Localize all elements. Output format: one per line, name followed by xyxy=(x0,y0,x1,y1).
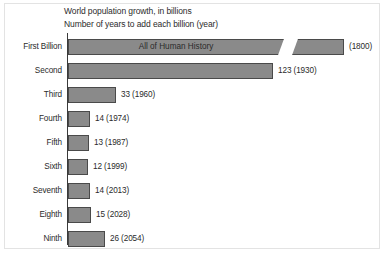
bar-value-label: 13 (1987) xyxy=(94,131,128,155)
bar-row-label: Ninth xyxy=(0,227,62,251)
bar-row-label: Fifth xyxy=(0,131,62,155)
bar xyxy=(68,183,90,199)
bar-value-label: 26 (2054) xyxy=(110,227,144,251)
bar xyxy=(68,231,105,247)
bar-row: Fourth14 (1974) xyxy=(0,107,386,131)
bar-value-label: 14 (2013) xyxy=(95,179,129,203)
bar-row-label: Sixth xyxy=(0,155,62,179)
bar-row-label: Seventh xyxy=(0,179,62,203)
bar-row: Sixth12 (1999) xyxy=(0,155,386,179)
bar-row: Third33 (1960) xyxy=(0,83,386,107)
chart-plot-area: First BillionAll of Human History(1800)S… xyxy=(0,33,386,247)
bar-value-label: 123 (1930) xyxy=(278,59,317,83)
bar-row-label: Eighth xyxy=(0,203,62,227)
bar-row: Seventh14 (2013) xyxy=(0,179,386,203)
bar-value-label: 12 (1999) xyxy=(93,155,127,179)
bar-row: Fifth13 (1987) xyxy=(0,131,386,155)
bar xyxy=(68,135,89,151)
bar-row-label: Third xyxy=(0,83,62,107)
bar-row-label: First Billion xyxy=(0,35,62,59)
chart-title: World population growth, in billions xyxy=(64,5,364,18)
bar-row: Ninth26 (2054) xyxy=(0,227,386,251)
bar-value-label: 15 (2028) xyxy=(96,203,130,227)
bar xyxy=(68,159,88,175)
bar-row: Second123 (1930) xyxy=(0,59,386,83)
bar-row-label: Second xyxy=(0,59,62,83)
bar-value-label: (1800) xyxy=(349,35,372,59)
bar-row: Eighth15 (2028) xyxy=(0,203,386,227)
chart-titles: World population growth, in billions Num… xyxy=(64,5,364,31)
bar xyxy=(68,87,116,103)
bar xyxy=(68,111,90,127)
bar-row-label: Fourth xyxy=(0,107,62,131)
bar-inner-label: All of Human History xyxy=(68,39,284,55)
chart-subtitle: Number of years to add each billion (yea… xyxy=(64,18,364,31)
bar-value-label: 33 (1960) xyxy=(121,83,155,107)
bar xyxy=(68,63,273,79)
bar xyxy=(68,207,91,223)
bar-row: First BillionAll of Human History(1800) xyxy=(0,35,386,59)
bar-value-label: 14 (1974) xyxy=(95,107,129,131)
